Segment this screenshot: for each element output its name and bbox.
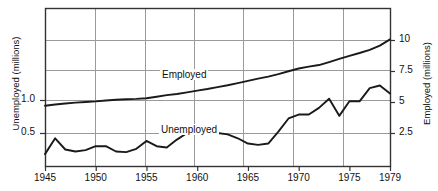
series-annotation-employed: Employed <box>160 69 208 80</box>
x-axis-tick-label: 1945 <box>25 172 65 183</box>
x-axis-tick-label: 1950 <box>76 172 116 183</box>
series-line-employed <box>45 39 390 105</box>
series-line-unemployed <box>45 85 390 154</box>
chart-container: Unemployed (millions) Employed (millions… <box>0 0 438 191</box>
x-axis-tick-label: 1955 <box>126 172 166 183</box>
y-axis-right-tick-label: 10 <box>399 33 429 44</box>
x-axis-tick-label: 1970 <box>279 172 319 183</box>
y-axis-right-tick-label: 2.5 <box>399 126 429 137</box>
x-axis-tick-label: 1975 <box>329 172 369 183</box>
series-annotation-unemployed: Unemployed <box>159 124 219 135</box>
x-axis-tick-label: 1965 <box>228 172 268 183</box>
y-axis-left-tick-label: 0.5 <box>7 126 35 137</box>
x-axis-tick-label: 1979 <box>370 172 410 183</box>
y-axis-left-tick-label: 1.0 <box>7 93 35 104</box>
axis-ticks <box>40 41 395 172</box>
y-axis-right-tick-label: 7.5 <box>399 64 429 75</box>
chart-plot-area <box>0 0 438 191</box>
y-axis-right-tick-label: 5 <box>399 95 429 106</box>
x-axis-tick-label: 1960 <box>177 172 217 183</box>
